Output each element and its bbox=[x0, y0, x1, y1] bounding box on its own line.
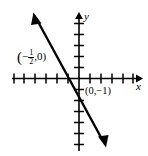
y-axis-arrowhead-icon bbox=[75, 12, 83, 19]
x-intercept-label: (−12,0) bbox=[17, 49, 46, 67]
x-intercept-tail: ,0) bbox=[34, 50, 46, 62]
y-axis-label: y bbox=[84, 11, 89, 22]
coordinate-plane-figure: y x (−12,0) (0,−1) bbox=[0, 0, 148, 156]
y-intercept-label: (0,−1) bbox=[85, 86, 111, 97]
line-arrowhead-upper-icon bbox=[31, 13, 42, 26]
line-arrowhead-lower-icon bbox=[98, 135, 109, 148]
graph-canvas bbox=[0, 0, 148, 156]
x-axis-label: x bbox=[136, 81, 141, 92]
